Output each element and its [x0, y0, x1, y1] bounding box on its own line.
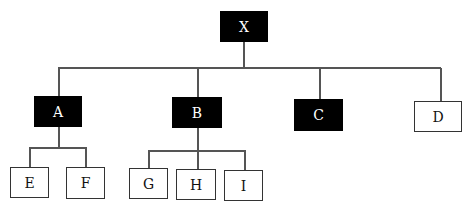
- node-label: I: [241, 178, 247, 194]
- node-label: G: [143, 176, 154, 192]
- node-label: D: [432, 109, 443, 125]
- connector-to-a: [58, 67, 60, 96]
- connector-x-down: [243, 42, 245, 68]
- node-label: H: [190, 177, 202, 193]
- node-label: B: [192, 105, 202, 121]
- node-label: C: [313, 107, 324, 123]
- connector-a-down: [58, 127, 60, 147]
- node-label: F: [81, 175, 91, 191]
- connector-to-e: [29, 147, 31, 167]
- connector-a-children-bar: [29, 147, 86, 149]
- connector-b-down: [197, 128, 199, 169]
- node-label: E: [24, 175, 34, 191]
- node-e: E: [10, 167, 49, 198]
- connector-to-b: [197, 67, 199, 97]
- node-label: A: [53, 104, 63, 120]
- connector-to-f: [85, 147, 87, 167]
- node-g: G: [129, 168, 168, 199]
- node-b: B: [172, 97, 222, 128]
- node-d: D: [414, 101, 462, 132]
- connector-to-d: [440, 68, 442, 101]
- connector-to-g: [148, 150, 150, 168]
- node-a: A: [34, 96, 82, 127]
- node-f: F: [66, 167, 105, 199]
- node-c: C: [294, 99, 343, 131]
- node-h: H: [176, 169, 216, 200]
- node-i: I: [224, 170, 263, 201]
- tree-diagram: X A B C D E F G H I: [0, 0, 472, 213]
- connector-to-i: [244, 150, 246, 170]
- node-x: X: [220, 11, 268, 42]
- connector-b-children-bar: [148, 150, 245, 152]
- connector-to-c: [319, 68, 321, 99]
- node-label: X: [239, 19, 249, 35]
- connector-level1-bar: [58, 67, 441, 69]
